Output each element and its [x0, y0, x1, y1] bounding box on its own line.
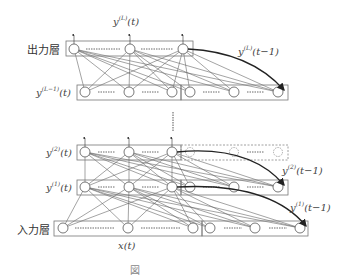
label-y2-tm1: y(2)(t−1) — [282, 163, 323, 176]
label-y1-t: y(1)(t) — [46, 180, 72, 193]
label-y2-t: y(2)(t) — [46, 145, 72, 158]
output-node-1 — [69, 44, 79, 54]
output-node-3 — [178, 44, 188, 54]
label-x-t: x(t) — [118, 240, 135, 251]
label-yLm1-t: y(L−1)(t) — [36, 85, 71, 98]
layer-2 — [77, 138, 288, 160]
output-node-2 — [125, 44, 135, 54]
label-yL-tm1: y(L)(t−1) — [238, 44, 279, 57]
label-output-layer: 出力層 — [27, 41, 60, 57]
figure-caption: 図 — [130, 262, 140, 277]
connections-layer1-to-layer2 — [85, 152, 278, 187]
connections-input-to-layer1 — [63, 187, 300, 228]
label-input-layer: 入力層 — [17, 221, 50, 237]
label-y1-tm1: y(1)(t−1) — [290, 200, 331, 213]
label-yL-t: y(L)(t) — [113, 14, 139, 27]
